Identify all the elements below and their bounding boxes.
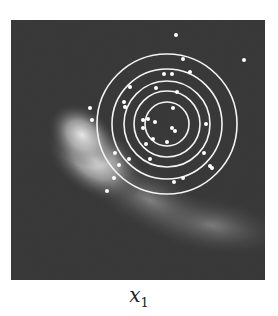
data-point [88,106,92,110]
data-point [174,33,178,37]
data-point [242,58,246,62]
data-point [112,176,116,180]
data-point [146,117,150,121]
data-point [144,142,148,146]
data-point [210,166,214,170]
data-point [204,122,208,126]
density-plot [11,20,265,280]
data-point [148,157,152,161]
data-point [141,118,145,122]
data-point [181,57,185,61]
data-point [113,151,117,155]
data-point [181,176,185,180]
x-axis-label: x1 [0,283,278,310]
data-point [171,106,175,110]
data-point [123,105,127,109]
data-point [117,163,121,167]
data-point [162,72,166,76]
data-point [90,118,94,122]
data-point [188,70,192,74]
data-point [175,90,179,94]
data-point [105,189,109,193]
data-point [154,86,158,90]
data-point [141,126,145,130]
data-point [127,157,131,161]
data-point [173,129,177,133]
data-point [153,120,157,124]
data-point [170,72,174,76]
data-point [122,100,126,104]
data-point [165,140,169,144]
data-point [128,85,132,89]
data-point [202,151,206,155]
data-point [172,180,176,184]
data-point [170,126,174,130]
data-point [151,137,155,141]
